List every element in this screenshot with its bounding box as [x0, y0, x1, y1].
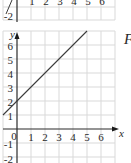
- y-tick-6: 6: [8, 40, 14, 52]
- x-tick-2: 2: [42, 131, 48, 143]
- top-x-tick-6: 6: [99, 0, 105, 7]
- x-tick-4: 4: [70, 131, 76, 143]
- y-tick-neg1: -1: [4, 138, 13, 150]
- grid: [3, 31, 115, 163]
- x-tick-3: 3: [56, 131, 62, 143]
- x-axis-label: x: [118, 127, 124, 139]
- main-chart: y x 6 5 4 3 2 1 0 -1 -2 1 2 3 4 5 6: [3, 28, 124, 163]
- x-tick-5: 5: [84, 131, 90, 143]
- chart-svg: 1 2 3 4 5 6 -2 F: [0, 0, 131, 163]
- y-axis-arrow-icon: [15, 32, 20, 39]
- top-x-tick-2: 2: [43, 0, 49, 7]
- top-x-tick-1: 1: [29, 0, 35, 7]
- x-tick-6: 6: [98, 131, 104, 143]
- y-tick-5: 5: [8, 54, 14, 66]
- y-axis-label: y: [9, 28, 15, 40]
- y-tick-1: 1: [8, 110, 14, 122]
- panel-label: F: [123, 31, 131, 47]
- y-tick-4: 4: [8, 68, 14, 80]
- top-x-tick-3: 3: [57, 0, 63, 7]
- y-tick-3: 3: [8, 82, 14, 94]
- y-tick-neg2: -2: [4, 153, 13, 163]
- top-x-tick-4: 4: [71, 0, 77, 7]
- top-x-tick-5: 5: [85, 0, 91, 7]
- top-y-tick-neg2: -2: [4, 10, 13, 22]
- top-chart-fragment: 1 2 3 4 5 6 -2: [3, 0, 115, 22]
- x-tick-1: 1: [28, 131, 34, 143]
